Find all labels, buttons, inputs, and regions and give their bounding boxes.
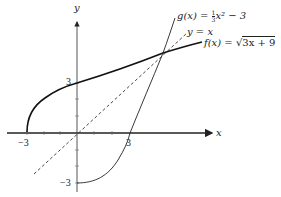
plot-canvas [0,0,281,197]
y-axis-label: y [74,3,80,13]
tick-label-x-3: 3 [126,138,131,148]
line-y-equals-x [34,34,186,174]
g-label-prefix: g(x) = [177,10,212,21]
tick-label-y-3: 3 [66,77,71,87]
curve-f [27,42,202,132]
tick-label-y-neg3: −3 [60,178,71,188]
tick-label-x-neg3: −3 [18,138,29,148]
legend-g: g(x) = 13x² − 3 [177,10,246,23]
legend-f: f(x) = √3x + 9 [204,38,275,48]
curve-g [77,18,175,183]
g-label-suffix: x² − 3 [215,10,246,21]
legend-y-equals-x: y = x [187,27,213,37]
x-axis-label: x [216,128,222,138]
f-radicand: 3x + 9 [242,36,275,48]
f-label-prefix: f(x) = √ [204,37,242,48]
function-graph: y x −3 3 3 −3 g(x) = 13x² − 3 y = x f(x)… [0,0,281,197]
